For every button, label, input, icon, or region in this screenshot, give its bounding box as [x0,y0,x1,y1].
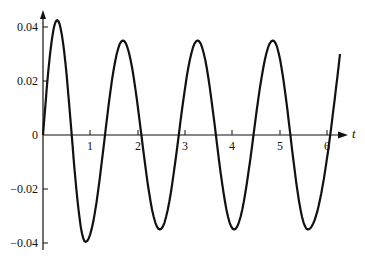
x-axis-arrow-icon [338,132,348,139]
x-tick-label: 5 [277,139,283,153]
y-tick-label: 0 [32,128,38,142]
x-ticks [90,130,327,135]
x-tick-label: 4 [229,139,235,153]
y-tick-label: −0.04 [10,236,38,250]
x-tick-label: 3 [182,139,188,153]
data-curve [43,20,340,242]
x-axis-label: t [352,126,356,141]
y-tick-label: 0.02 [17,74,38,88]
y-tick-label: 0.04 [17,20,38,34]
x-tick-label: 1 [87,139,93,153]
x-tick-label: 2 [135,139,141,153]
y-axis-arrow-icon [40,10,46,19]
y-tick-label: −0.02 [10,182,38,196]
chart: t 0.04 0.02 0 −0.02 −0.04 1 2 3 4 5 6 [0,0,365,266]
